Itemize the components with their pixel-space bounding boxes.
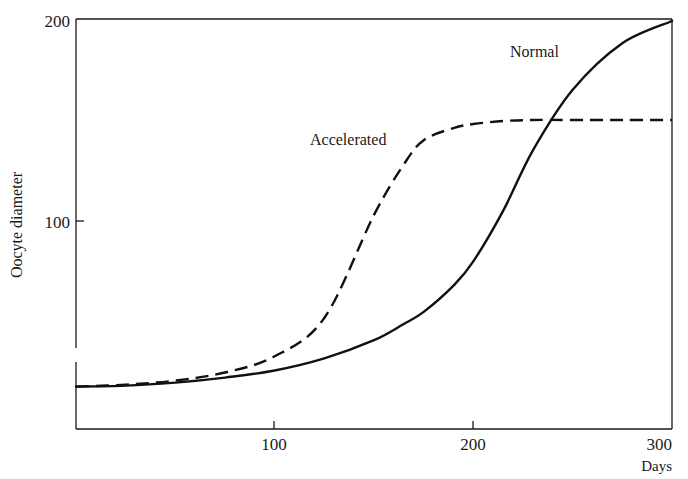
y-tick-label-200: 200 xyxy=(45,12,71,31)
curve-normal xyxy=(76,21,672,387)
x-tick-label-300: 300 xyxy=(647,435,673,454)
oocyte-growth-chart: 200 100 100 200 300 Days Oocyte diameter… xyxy=(0,0,688,479)
x-tick-label-200: 200 xyxy=(460,435,486,454)
y-tick-label-100: 100 xyxy=(45,213,71,232)
y-axis-title: Oocyte diameter xyxy=(8,171,26,278)
curve-label-accelerated: Accelerated xyxy=(310,131,386,148)
x-tick-label-100: 100 xyxy=(261,435,287,454)
curve-label-normal: Normal xyxy=(510,43,559,60)
curve-accelerated xyxy=(76,120,672,387)
x-axis-title: Days xyxy=(641,458,672,474)
